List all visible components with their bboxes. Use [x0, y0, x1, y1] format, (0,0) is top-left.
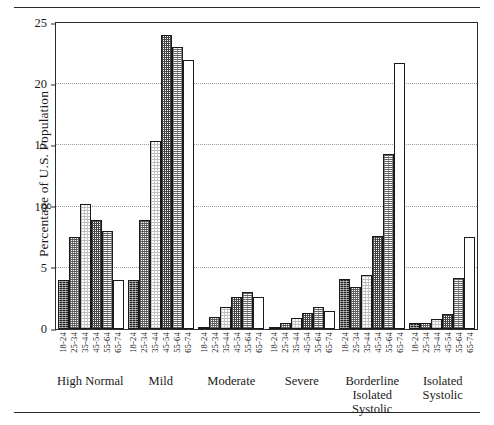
bar-group	[267, 23, 337, 329]
age-tick-text: 18-24	[269, 332, 279, 353]
age-tick: 65-74	[324, 330, 335, 376]
age-tick-text: 45-54	[302, 332, 312, 353]
age-tick: 55-64	[454, 330, 465, 376]
bar	[102, 231, 113, 329]
y-tick-label: 25	[10, 16, 56, 31]
age-tick-text: 45-54	[161, 332, 171, 353]
age-tick: 45-54	[161, 330, 172, 376]
age-tick-text: 65-74	[465, 332, 475, 353]
age-tick-text: 45-54	[91, 332, 101, 353]
age-tick: 25-34	[209, 330, 220, 376]
category-label-line: Borderline	[337, 374, 408, 388]
age-tick-text: 18-24	[128, 332, 138, 353]
age-tick-text: 55-64	[172, 332, 182, 353]
category-label: Mild	[126, 374, 197, 416]
age-tick-text: 35-44	[221, 332, 231, 353]
category-label: Moderate	[196, 374, 267, 416]
age-tick-group: 18-2425-3435-4445-5455-6465-74	[196, 330, 267, 376]
age-tick: 18-24	[128, 330, 139, 376]
bar	[172, 47, 183, 329]
age-tick: 18-24	[269, 330, 280, 376]
bar-group	[407, 23, 477, 329]
age-tick-labels: 18-2425-3435-4445-5455-6465-7418-2425-34…	[55, 330, 478, 376]
bar	[383, 154, 394, 329]
age-tick-text: 25-34	[351, 332, 361, 353]
bar	[453, 278, 464, 329]
bar	[464, 237, 475, 329]
age-tick: 25-34	[421, 330, 432, 376]
age-tick: 18-24	[57, 330, 68, 376]
age-tick: 18-24	[339, 330, 350, 376]
age-tick: 65-74	[465, 330, 476, 376]
age-tick-text: 55-64	[454, 332, 464, 353]
age-tick: 55-64	[313, 330, 324, 376]
age-tick: 18-24	[198, 330, 209, 376]
age-tick-text: 18-24	[58, 332, 68, 353]
age-tick-text: 25-34	[69, 332, 79, 353]
age-tick-group: 18-2425-3435-4445-5455-6465-74	[267, 330, 338, 376]
bar-group	[126, 23, 196, 329]
age-tick: 45-54	[372, 330, 383, 376]
bar	[183, 60, 194, 329]
y-tick-label: 5	[10, 260, 56, 275]
age-tick-text: 35-44	[80, 332, 90, 353]
age-tick-text: 45-54	[373, 332, 383, 353]
age-tick-text: 35-44	[291, 332, 301, 353]
age-tick-text: 25-34	[280, 332, 290, 353]
age-tick-text: 35-44	[150, 332, 160, 353]
bar	[350, 287, 361, 329]
category-label: High Normal	[55, 374, 126, 416]
bar	[242, 292, 253, 329]
age-tick: 25-34	[68, 330, 79, 376]
age-tick: 55-64	[101, 330, 112, 376]
category-label: BorderlineIsolatedSystolic	[337, 374, 408, 416]
y-tick-label: 20	[10, 77, 56, 92]
age-tick-text: 35-44	[432, 332, 442, 353]
age-tick-text: 65-74	[113, 332, 123, 353]
age-tick: 18-24	[410, 330, 421, 376]
age-tick-text: 25-34	[139, 332, 149, 353]
age-tick: 35-44	[432, 330, 443, 376]
bar	[58, 280, 69, 329]
category-label-line: High Normal	[55, 374, 126, 388]
age-tick-text: 45-54	[232, 332, 242, 353]
category-label: Severe	[267, 374, 338, 416]
y-tick-label: 0	[10, 322, 56, 337]
bar-group	[337, 23, 407, 329]
age-tick-text: 18-24	[410, 332, 420, 353]
category-label: IsolatedSystolic	[408, 374, 479, 416]
bar	[280, 323, 291, 329]
category-label-line: Systolic	[337, 402, 408, 416]
age-tick: 35-44	[150, 330, 161, 376]
bar	[69, 237, 80, 329]
age-tick-text: 65-74	[324, 332, 334, 353]
bar	[209, 317, 220, 329]
category-label-line: Systolic	[408, 388, 479, 402]
bar	[324, 311, 335, 329]
plot-area: 0510152025	[55, 22, 478, 330]
chart-figure: Percentage of U.S. Population 0510152025…	[0, 0, 494, 425]
bar-group	[196, 23, 266, 329]
bar	[269, 327, 280, 329]
age-tick-text: 55-64	[313, 332, 323, 353]
bar	[361, 275, 372, 329]
y-tick-label: 15	[10, 138, 56, 153]
category-label-line: Isolated	[408, 374, 479, 388]
bar	[394, 63, 405, 329]
age-tick-text: 18-24	[340, 332, 350, 353]
age-tick-text: 65-74	[395, 332, 405, 353]
top-rule	[14, 7, 480, 8]
bar	[420, 323, 431, 329]
bar	[231, 297, 242, 329]
bar	[161, 35, 172, 329]
age-tick-text: 35-44	[362, 332, 372, 353]
bar	[431, 319, 442, 329]
bar	[372, 236, 383, 329]
age-tick: 55-64	[383, 330, 394, 376]
bar	[442, 314, 453, 329]
y-tick-label: 10	[10, 199, 56, 214]
age-tick: 45-54	[443, 330, 454, 376]
category-labels: High NormalMildModerateSevereBorderlineI…	[55, 374, 478, 416]
bar	[139, 220, 150, 329]
age-tick: 55-64	[242, 330, 253, 376]
